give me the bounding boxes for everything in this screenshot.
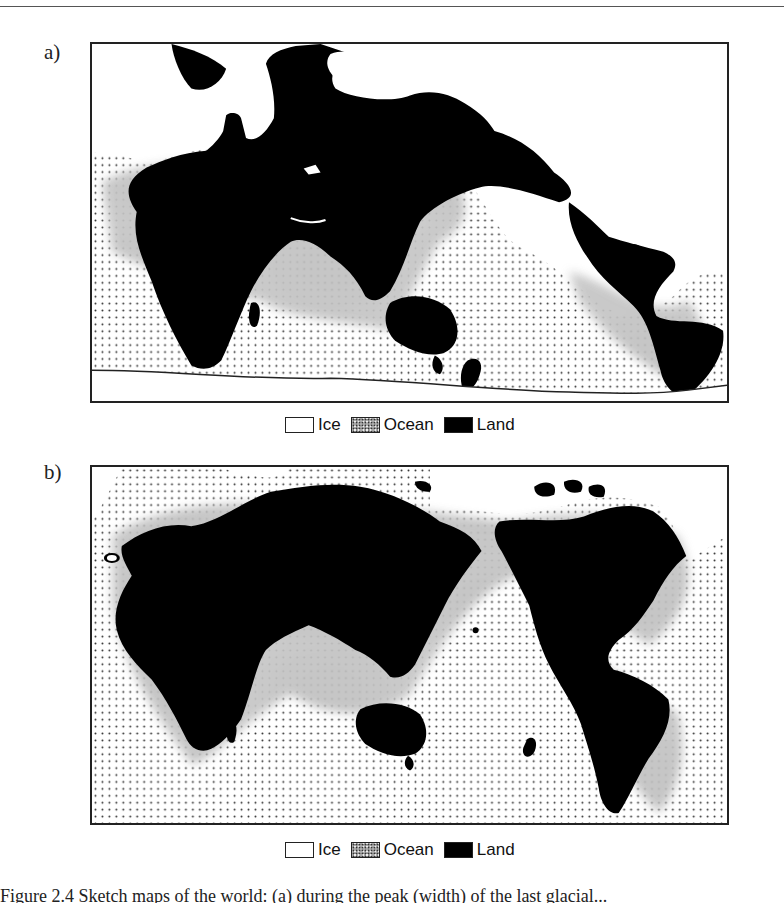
- legend-label-ocean: Ocean: [384, 415, 434, 435]
- map-panel-b: [90, 465, 729, 825]
- legend-label-ice: Ice: [318, 415, 341, 435]
- ice-swatch-icon: [285, 417, 314, 433]
- legend-item-ocean: Ocean: [351, 840, 434, 860]
- legend-panel-b: Ice Ocean Land: [285, 840, 525, 860]
- legend-item-ice: Ice: [285, 415, 341, 435]
- legend-label-ocean: Ocean: [384, 840, 434, 860]
- world-map-present: [92, 467, 727, 823]
- legend-item-land: Land: [444, 840, 515, 860]
- figure-caption: Figure 2.4 Sketch maps of the world: (a)…: [0, 886, 784, 903]
- legend-label-land: Land: [477, 415, 515, 435]
- legend-item-ice: Ice: [285, 840, 341, 860]
- ocean-swatch-icon: [351, 842, 380, 858]
- legend-item-land: Land: [444, 415, 515, 435]
- legend-label-ice: Ice: [318, 840, 341, 860]
- land-swatch-icon: [444, 842, 473, 858]
- panel-a-label: a): [44, 40, 60, 65]
- legend-item-ocean: Ocean: [351, 415, 434, 435]
- world-map-glacial: [92, 44, 727, 401]
- panel-b-label: b): [44, 460, 62, 485]
- land-swatch-icon: [444, 417, 473, 433]
- map-panel-a: [90, 42, 729, 403]
- top-rule: [0, 6, 784, 7]
- legend-panel-a: Ice Ocean Land: [285, 415, 525, 435]
- legend-label-land: Land: [477, 840, 515, 860]
- ocean-swatch-icon: [351, 417, 380, 433]
- ice-swatch-icon: [285, 842, 314, 858]
